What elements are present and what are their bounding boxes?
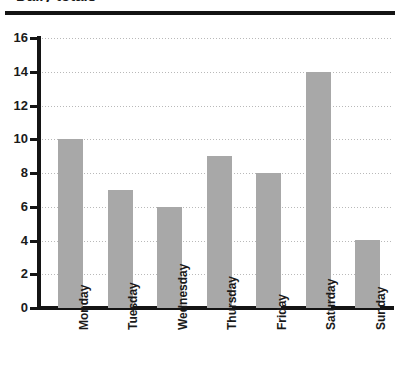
x-axis-label-text: Monday bbox=[77, 316, 91, 330]
x-axis-label-text: Thursday bbox=[225, 316, 239, 330]
x-axis-label: Friday bbox=[275, 316, 289, 330]
x-axis-label-text: Sunday bbox=[374, 316, 388, 330]
bar-series bbox=[0, 0, 404, 391]
x-axis-label: Thursday bbox=[225, 316, 239, 330]
bar[interactable] bbox=[256, 173, 281, 308]
bar[interactable] bbox=[58, 139, 83, 308]
x-axis-label: Tuesday bbox=[126, 316, 140, 330]
x-axis-label: Saturday bbox=[324, 316, 338, 330]
x-axis-label: Sunday bbox=[374, 316, 388, 330]
x-axis-label-text: Friday bbox=[275, 316, 289, 330]
bar[interactable] bbox=[306, 72, 331, 308]
x-axis-label-text: Wednesday bbox=[176, 316, 190, 330]
x-axis-label: Monday bbox=[77, 316, 91, 330]
x-axis-label-text: Saturday bbox=[324, 316, 338, 330]
plot-area: 1614121086420 MondayTuesdayWednesdayThur… bbox=[0, 0, 404, 391]
x-axis-label-text: Tuesday bbox=[126, 316, 140, 330]
x-axis-label: Wednesday bbox=[176, 316, 190, 330]
bar-chart-figure: Daily totals 1614121086420 MondayTuesday… bbox=[0, 0, 404, 391]
